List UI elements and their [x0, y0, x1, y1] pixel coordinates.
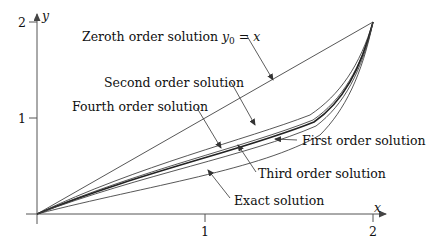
solution-curves: [37, 22, 373, 214]
first-order-label: First order solution: [302, 133, 426, 148]
perturbation-solutions-diagram: 1 2 1 2 x y Zeroth order solution y0 = x…: [0, 0, 430, 249]
x-tick-1-label: 1: [201, 224, 209, 239]
third-arrow: [238, 145, 256, 172]
y-tick-2-label: 2: [18, 15, 26, 30]
x-axis-label: x: [374, 200, 381, 215]
zeroth-order-label: Zeroth order solution y0 = x: [82, 29, 260, 46]
zeroth-order-text: Zeroth order solution: [82, 29, 222, 44]
y-axis-label: y: [41, 8, 50, 23]
exact-arrow: [208, 170, 230, 198]
third-order-label: Third order solution: [258, 166, 386, 181]
fourth-arrow: [197, 108, 221, 148]
second-order-label: Second order solution: [104, 75, 244, 90]
y-tick-1-label: 1: [18, 111, 26, 126]
zeroth-math-eq: = x: [235, 29, 260, 44]
fourth-order-label: Fourth order solution: [72, 99, 208, 114]
x-tick-2-label: 2: [369, 224, 377, 239]
exact-solution-label: Exact solution: [234, 193, 324, 208]
zeroth-order-curve: [37, 22, 373, 214]
